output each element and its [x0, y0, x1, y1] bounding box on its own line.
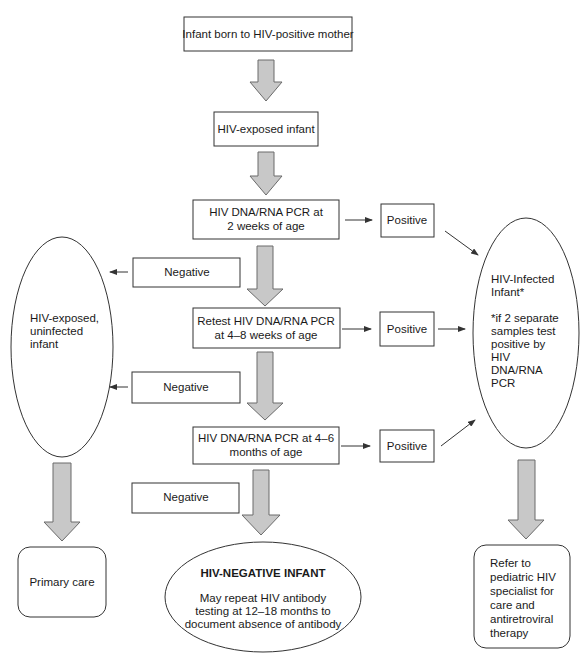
text-line: positive by: [491, 338, 546, 350]
text-line: HIV: [491, 351, 511, 363]
flow-arrow-pcr2wk-to-pcr4-8wk: [247, 246, 283, 306]
text-line: Positive: [387, 323, 427, 335]
node-positive-3-text: Positive: [387, 440, 427, 452]
text-line: Positive: [387, 214, 427, 226]
text-line: HIV DNA/RNA PCR at: [209, 206, 324, 218]
node-exposed-text: HIV-exposed infant: [217, 123, 315, 135]
text-line: samples test: [491, 325, 556, 337]
node-exposed: HIV-exposed infant: [214, 112, 318, 146]
text-line: May repeat HIV antibody: [200, 592, 327, 604]
text-line: HIV DNA/RNA PCR at 4–6: [198, 432, 334, 444]
text-line: document absence of antibody: [185, 618, 342, 630]
node-positive-2: Positive: [380, 312, 434, 346]
node-negative-1-text: Negative: [164, 266, 209, 278]
flow-arrow-start-to-exposed: [250, 60, 282, 101]
node-positive-1: Positive: [381, 204, 434, 237]
arrow-positive3-to-infected: [441, 420, 475, 446]
node-pcr-2-weeks: HIV DNA/RNA PCR at2 weeks of age: [193, 200, 339, 239]
text-line: Refer to: [490, 557, 531, 569]
text-line: HIV-exposed,: [30, 312, 99, 324]
flowchart: Infant born to HIV-positive mother HIV-e…: [0, 0, 582, 660]
flow-arrow-uninfected-to-primary-care: [44, 463, 80, 541]
node-negative-3: Negative: [132, 483, 239, 513]
text-line: antiretroviral: [490, 613, 553, 625]
flow-arrow-pcr4-6mo-to-negative-infant: [242, 470, 280, 535]
text-line: [491, 299, 494, 311]
node-pcr-4-6-months: HIV DNA/RNA PCR at 4–6months of age: [193, 427, 339, 464]
text-line: therapy: [490, 627, 529, 639]
text-line: pediatric HIV: [490, 571, 556, 583]
node-primary-care: Primary care: [18, 547, 106, 617]
text-line: specialist for: [490, 585, 554, 597]
text-line: testing at 12–18 months to: [195, 605, 331, 617]
arrow-positive1-to-infected: [445, 231, 478, 255]
node-start: Infant born to HIV-positive mother: [182, 17, 353, 51]
flow-arrow-exposed-to-pcr2wk: [250, 152, 282, 195]
text-line: Negative: [163, 491, 208, 503]
text-line: months of age: [230, 446, 303, 458]
text-line: Retest HIV DNA/RNA PCR: [197, 315, 334, 327]
flow-arrow-infected-to-refer: [508, 460, 544, 539]
node-positive-2-text: Positive: [387, 323, 427, 335]
text-line: 2 weeks of age: [227, 220, 304, 232]
text-line: Infant*: [491, 286, 525, 298]
node-pcr-4-8-weeks: Retest HIV DNA/RNA PCRat 4–8 weeks of ag…: [193, 308, 340, 348]
node-positive-1-text: Positive: [387, 214, 427, 226]
text-line: HIV-Infected: [491, 273, 554, 285]
node-positive-3: Positive: [380, 430, 434, 462]
node-hiv-infected: HIV-InfectedInfant* *if 2 separatesample…: [473, 218, 579, 448]
text-line: Negative: [163, 381, 208, 393]
text-line: at 4–8 weeks of age: [215, 329, 318, 341]
text-line: Primary care: [29, 576, 94, 588]
node-hiv-negative-text: May repeat HIV antibodytesting at 12–18 …: [185, 592, 342, 630]
text-line: infant: [30, 338, 59, 350]
node-start-text: Infant born to HIV-positive mother: [182, 28, 353, 40]
text-line: *if 2 separate: [491, 312, 559, 324]
node-negative-2-text: Negative: [163, 381, 208, 393]
node-hiv-negative-heading: HIV-NEGATIVE INFANT: [200, 567, 325, 579]
node-primary-care-text: Primary care: [29, 576, 94, 588]
text-line: Positive: [387, 440, 427, 452]
node-hiv-negative-infant: HIV-NEGATIVE INFANT May repeat HIV antib…: [165, 542, 361, 652]
node-uninfected: HIV-exposed,uninfectedinfant: [11, 237, 113, 457]
node-negative-3-text: Negative: [163, 491, 208, 503]
text-line: DNA/RNA: [491, 364, 543, 376]
text-line: Infant born to HIV-positive mother: [182, 28, 353, 40]
node-negative-2: Negative: [132, 372, 240, 403]
text-line: PCR: [491, 377, 515, 389]
text-line: uninfected: [30, 325, 83, 337]
text-line: HIV-exposed infant: [217, 123, 315, 135]
node-negative-1: Negative: [133, 258, 240, 287]
flow-arrow-pcr4-8wk-to-pcr4-6mo: [247, 352, 283, 420]
node-refer-specialist: Refer topediatric HIVspecialist forcare …: [474, 545, 570, 648]
text-line: care and: [490, 599, 535, 611]
text-line: Negative: [164, 266, 209, 278]
